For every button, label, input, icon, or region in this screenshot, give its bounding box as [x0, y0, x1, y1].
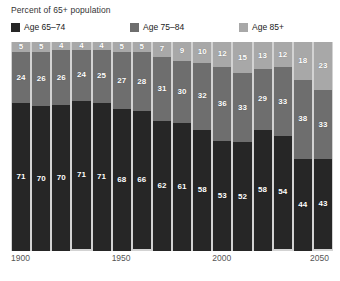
plot-area: 5247152670426704247142571527685286673162…	[11, 42, 333, 251]
bar-segment: 27	[113, 52, 131, 108]
bar-segment-value: 31	[157, 85, 166, 93]
bar-2050[interactable]: 233343	[314, 42, 332, 251]
bar-segment-value: 43	[318, 200, 327, 208]
bar-segment-value: 71	[97, 173, 106, 181]
bar-segment-value: 13	[258, 52, 267, 60]
bar-2020[interactable]: 132958	[254, 42, 272, 251]
x-axis-tick-2050: 2050	[310, 253, 329, 263]
bar-segment: 33	[233, 73, 251, 142]
bar-segment-value: 71	[77, 171, 86, 179]
bar-segment-value: 33	[278, 98, 287, 106]
bar-segment: 62	[153, 121, 171, 251]
bar-segment-value: 53	[218, 192, 227, 200]
legend-item-age-75-84: Age 75–84	[130, 22, 184, 32]
bar-1990[interactable]: 103258	[193, 42, 211, 251]
bar-segment-value: 70	[57, 174, 66, 182]
bar-segment: 58	[193, 130, 211, 251]
chart-title: Percent of 65+ population	[11, 5, 111, 15]
bar-segment-value: 25	[97, 72, 106, 80]
bar-segment-value: 54	[278, 188, 287, 196]
bar-segment-value: 44	[298, 201, 307, 209]
legend-swatch-age-75-84	[130, 23, 139, 32]
bar-segment: 4	[52, 42, 70, 50]
bar-segment: 26	[52, 50, 70, 104]
bar-1920[interactable]: 42670	[52, 42, 70, 251]
x-axis-tick-2000: 2000	[212, 253, 231, 263]
bar-segment-value: 5	[19, 43, 23, 51]
bar-2000[interactable]: 123653	[213, 42, 231, 251]
bar-1980[interactable]: 93061	[173, 42, 191, 251]
bar-segment: 10	[193, 42, 211, 63]
bar-segment: 52	[233, 142, 251, 251]
bar-segment: 23	[314, 42, 332, 90]
legend-swatch-age-65-74	[11, 23, 20, 32]
bar-segment: 38	[294, 80, 312, 159]
legend-swatch-age-85-plus	[239, 23, 248, 32]
bar-segment: 33	[274, 67, 292, 136]
bar-segment-value: 70	[37, 175, 46, 183]
bar-segment: 4	[72, 42, 90, 50]
legend-label-age-85-plus: Age 85+	[252, 22, 284, 32]
chart-legend: Age 65–74 Age 75–84 Age 85+	[11, 22, 331, 35]
bar-segment: 18	[294, 42, 312, 80]
bar-segment: 70	[52, 105, 70, 251]
bar-segment: 54	[274, 136, 292, 249]
bar-2040[interactable]: 183844	[294, 42, 312, 251]
bar-segment: 9	[173, 42, 191, 61]
bar-1950[interactable]: 52768	[113, 42, 131, 251]
bar-segment: 53	[213, 141, 231, 251]
bar-segment: 33	[314, 90, 332, 159]
bar-segment: 5	[32, 42, 50, 52]
bar-2030[interactable]: 123354	[274, 42, 292, 251]
bar-segment-value: 18	[298, 57, 307, 65]
bar-segment: 61	[173, 123, 191, 250]
bar-segment: 43	[314, 159, 332, 249]
bar-segment: 68	[113, 109, 131, 251]
bar-1910[interactable]: 52670	[32, 42, 50, 251]
bar-segment-value: 9	[180, 47, 184, 55]
legend-label-age-75-84: Age 75–84	[143, 22, 184, 32]
bar-1940[interactable]: 42571	[93, 42, 111, 251]
x-axis-tick-1950: 1950	[112, 253, 131, 263]
bar-segment-value: 33	[238, 104, 247, 112]
bar-segment-value: 5	[119, 43, 123, 51]
bar-1930[interactable]: 42471	[72, 42, 90, 251]
bar-segment: 24	[12, 52, 30, 102]
bar-segment: 71	[12, 103, 30, 251]
bar-segment: 36	[213, 67, 231, 142]
bar-segment-value: 27	[117, 77, 126, 85]
bar-segment-value: 12	[218, 50, 227, 58]
bar-segment-value: 28	[137, 78, 146, 86]
bar-segment-value: 62	[157, 182, 166, 190]
bar-segment-value: 10	[198, 48, 207, 56]
bar-1900[interactable]: 52471	[12, 42, 30, 251]
bar-segment-value: 68	[117, 176, 126, 184]
bar-1960[interactable]: 52866	[133, 42, 151, 251]
bar-segment: 13	[254, 42, 272, 69]
bar-segment-value: 4	[59, 42, 63, 50]
bar-segment-value: 15	[238, 54, 247, 62]
bar-2010[interactable]: 153352	[233, 42, 251, 251]
bar-segment-value: 24	[17, 74, 26, 82]
bar-segment-value: 7	[160, 45, 164, 53]
bar-segment-value: 58	[198, 186, 207, 194]
bar-segment-value: 29	[258, 95, 267, 103]
bar-segment-value: 52	[238, 193, 247, 201]
bar-segment-value: 71	[17, 173, 26, 181]
bar-segment-value: 33	[318, 121, 327, 129]
chart-root: Percent of 65+ population Age 65–74 Age …	[0, 0, 340, 281]
legend-item-age-85-plus: Age 85+	[239, 22, 284, 32]
bar-segment-value: 61	[178, 183, 187, 191]
bar-segment-value: 58	[258, 186, 267, 194]
bar-segment-value: 32	[198, 92, 207, 100]
bar-segment-value: 26	[37, 75, 46, 83]
bar-segment: 30	[173, 61, 191, 124]
bar-segment: 12	[274, 42, 292, 67]
bar-segment: 28	[133, 52, 151, 111]
bar-1970[interactable]: 73162	[153, 42, 171, 251]
bar-segment: 5	[12, 42, 30, 52]
bar-segment: 5	[113, 42, 131, 52]
bar-segment: 31	[153, 57, 171, 122]
bar-segment-value: 66	[137, 176, 146, 184]
bar-segment-value: 4	[99, 42, 103, 50]
